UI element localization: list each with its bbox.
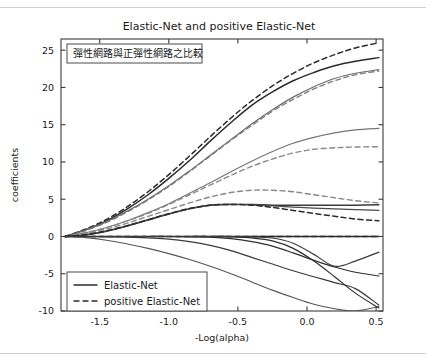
y-tick-label: 25 <box>42 45 54 56</box>
x-tick-label: 0.5 <box>369 316 384 327</box>
y-axis-label: coefficients <box>9 148 20 203</box>
y-tick-label: 0 <box>48 231 54 242</box>
y-tick-label: 5 <box>48 194 54 205</box>
chart-canvas: Elastic-Net and positive Elastic-Net -1.… <box>0 8 426 352</box>
screenshot-page: Elastic-Net and positive Elastic-Net -1.… <box>0 0 426 364</box>
legend-label-elastic-net: Elastic-Net <box>104 280 158 291</box>
x-tick-label: -0.5 <box>229 316 248 327</box>
x-tick-label: -1.0 <box>160 316 179 327</box>
y-tick-label: 15 <box>42 119 54 130</box>
y-tick-label: 10 <box>42 156 54 167</box>
y-tick-label: -5 <box>45 268 54 279</box>
legend: Elastic-Net positive Elastic-Net <box>67 272 207 311</box>
legend-label-positive-elastic-net: positive Elastic-Net <box>104 296 200 307</box>
annotation-text: 彈性網路與正彈性網路之比較 <box>73 47 203 59</box>
y-tick-label: 20 <box>42 82 54 93</box>
chart-title: Elastic-Net and positive Elastic-Net <box>123 20 316 33</box>
x-axis-label: -Log(alpha) <box>195 332 249 343</box>
x-tick-label: 0.0 <box>299 316 314 327</box>
matplotlib-figure: Elastic-Net and positive Elastic-Net -1.… <box>0 8 426 352</box>
y-tick-label: -10 <box>38 305 54 316</box>
annotation-box: 彈性網路與正彈性網路之比較 <box>67 44 203 63</box>
bottom-divider <box>0 353 426 354</box>
x-tick-label: -1.5 <box>90 316 109 327</box>
